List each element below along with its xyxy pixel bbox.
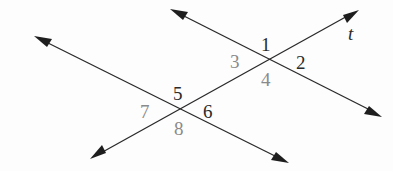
lower-line-left-arrowhead-icon [34, 36, 52, 47]
angle-label-2: 2 [296, 52, 306, 73]
transversal-label: t [348, 23, 354, 44]
angle-label-5: 5 [173, 83, 183, 104]
angle-label-8: 8 [174, 118, 184, 139]
angle-label-1: 1 [261, 34, 271, 55]
lower-parallel-line [34, 36, 289, 163]
transversal-segment [99, 14, 351, 154]
transversal-upper-arrowhead-icon [343, 10, 359, 23]
lower-line-segment [44, 41, 279, 158]
parallel-lines-diagram: t 1 2 3 4 5 6 7 8 [0, 0, 393, 171]
transversal-lower-arrowhead-icon [90, 145, 106, 159]
angle-label-6: 6 [203, 101, 213, 122]
angle-label-7: 7 [140, 101, 150, 122]
angle-label-3: 3 [230, 51, 240, 72]
angle-label-4: 4 [261, 69, 271, 90]
upper-line-left-arrowhead-icon [170, 9, 188, 20]
lower-line-right-arrowhead-icon [271, 152, 289, 163]
upper-line-segment [180, 14, 372, 111]
